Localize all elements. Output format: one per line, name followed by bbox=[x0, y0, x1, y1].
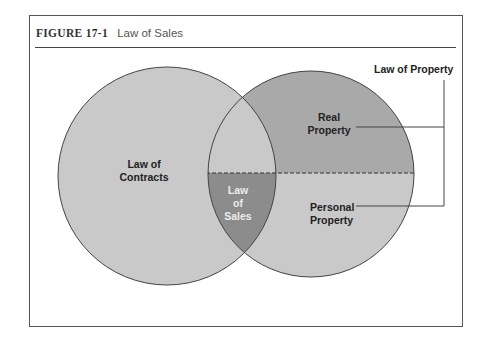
venn-diagram bbox=[0, 0, 488, 343]
real-property-label: Real Property bbox=[304, 111, 354, 137]
law-of-contracts-label: Law of Contracts bbox=[100, 158, 188, 184]
law-of-sales-label: Law of Sales bbox=[218, 184, 258, 223]
personal-property-label: Personal Property bbox=[310, 201, 354, 227]
law-of-property-label: Law of Property bbox=[374, 63, 453, 76]
